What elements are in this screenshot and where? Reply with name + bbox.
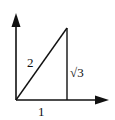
hypotenuse-label: 2	[27, 55, 34, 70]
triangle-diagram: 2 √3 1	[0, 0, 115, 120]
x-axis-arrow-icon	[95, 96, 109, 105]
base-label: 1	[38, 104, 45, 119]
vertical-side-label: √3	[70, 65, 84, 80]
y-axis-arrow-icon	[12, 13, 21, 27]
hypotenuse	[16, 28, 67, 100]
